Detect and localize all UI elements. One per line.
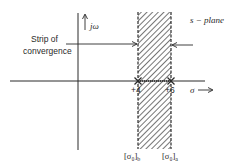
sigma-arrow-icon — [198, 88, 213, 93]
s-plane-diagram: jω σ +4 +6 s − plane Strip of convergenc… — [0, 0, 236, 168]
s-plane-label: s − plane — [190, 15, 224, 25]
left-arrow-icon — [66, 42, 137, 47]
jw-axis-label: jω — [89, 21, 99, 31]
boundary-label-b: [σ₀]b — [124, 151, 140, 162]
strip-label-line1: Strip of — [31, 34, 59, 44]
boundary-label-a: [σ₀]a — [162, 151, 178, 162]
right-arrow-icon — [172, 43, 193, 48]
pole-label-4: +4 — [131, 85, 141, 95]
strip-label-line2: convergence — [23, 46, 72, 56]
jw-arrow-icon — [83, 14, 88, 30]
pole-label-6: +6 — [165, 85, 175, 95]
sigma-axis-label: σ — [190, 85, 195, 95]
